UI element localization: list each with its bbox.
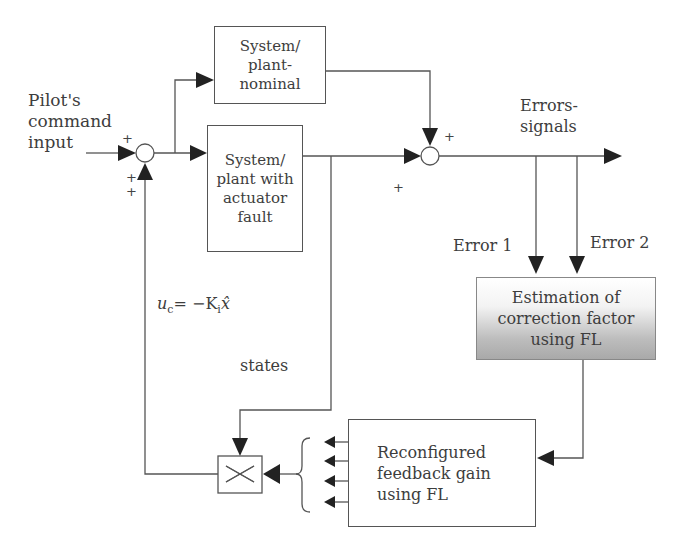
reconfigured-block-label: Reconfigured feedback gain using FL: [377, 442, 491, 505]
summing-junction-2: [421, 147, 439, 165]
arrow-into-faulty-icon: [190, 145, 207, 161]
arrow-into-sum2-left-icon: [404, 148, 421, 164]
error-2-label: Error 2: [590, 233, 650, 252]
signal-wires: [0, 0, 686, 552]
reconfigured-feedback-gain-block: Reconfigured feedback gain using FL: [348, 419, 536, 527]
system-plant-fault-block: System/ plant with actuator fault: [207, 125, 303, 252]
arrow-feedback-up-icon: [137, 163, 153, 180]
arrow-into-reconfigured-icon: [537, 450, 554, 466]
control-law-xhat: x̂: [221, 294, 230, 313]
error-1-label: Error 1: [453, 236, 513, 255]
nominal-block-label: System/ plant- nominal: [239, 37, 300, 94]
fault-block-label: System/ plant with actuator fault: [216, 151, 293, 227]
estimation-block-label: Estimation of correction factor using FL: [497, 287, 634, 350]
sum1-input-plus-sign: +: [122, 131, 133, 146]
arrow-output-icon: [604, 148, 622, 164]
arrow-gain-into-multiplier-icon: [263, 464, 280, 484]
arrow-error1-icon: [528, 256, 544, 274]
control-law-eq: = −K: [173, 294, 217, 313]
sum2-left-plus-sign: +: [393, 180, 404, 195]
states-label: states: [240, 356, 288, 375]
arrow-into-nominal-icon: [196, 72, 214, 88]
arrow-into-sum2-top-icon: [422, 128, 438, 146]
summing-junction-1: [136, 144, 154, 162]
sum1-feedback-plus-sign-b: +: [126, 184, 137, 199]
sum2-top-plus-sign: +: [444, 129, 455, 144]
pilot-command-input-label: Pilot's command input: [28, 90, 112, 153]
arrow-states-into-multiplier-icon: [232, 438, 248, 456]
sum1-feedback-plus-sign-a: +: [126, 170, 137, 185]
estimation-correction-factor-block: Estimation of correction factor using FL: [476, 277, 656, 360]
system-plant-nominal-block: System/ plant- nominal: [214, 26, 326, 104]
errors-signals-label: Errors- signals: [520, 95, 578, 137]
arrow-into-sum1-icon: [118, 145, 136, 161]
control-law-u: u: [157, 294, 167, 313]
control-law-equation: uc= −Kix̂: [157, 294, 230, 316]
arrow-error2-icon: [569, 256, 585, 274]
